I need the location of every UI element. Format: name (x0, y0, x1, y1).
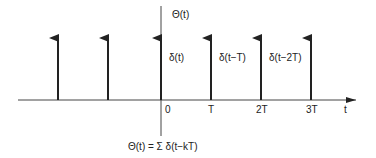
tick-label: T (208, 104, 214, 115)
formula: Θ(t) = Σ δ(t−kT) (128, 141, 198, 152)
impulses (58, 38, 311, 100)
tick-label: 3T (306, 104, 318, 115)
impulse-label: δ(t) (169, 52, 184, 63)
y-axis-label: Θ(t) (172, 9, 189, 20)
impulse-label: δ(t−T) (219, 52, 246, 63)
x-axis-label: t (344, 104, 347, 115)
tick-label: 0 (165, 104, 171, 115)
impulse-train-diagram: Θ(t) δ(t) δ(t−T) δ(t−2T) 0 T 2T 3T t Θ(t… (0, 0, 376, 158)
impulse-label: δ(t−2T) (269, 52, 302, 63)
tick-label: 2T (256, 104, 268, 115)
